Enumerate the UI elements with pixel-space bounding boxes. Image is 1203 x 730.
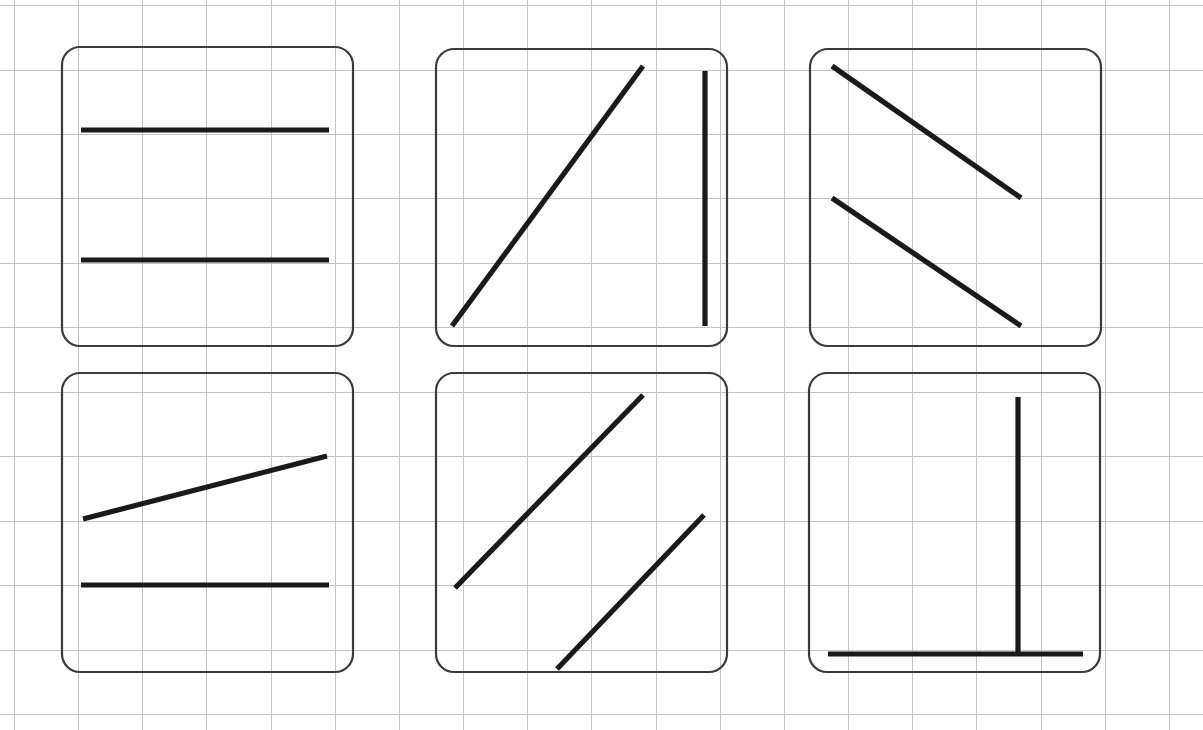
drawing-canvas — [0, 0, 1203, 730]
panels-scene — [0, 0, 1203, 730]
